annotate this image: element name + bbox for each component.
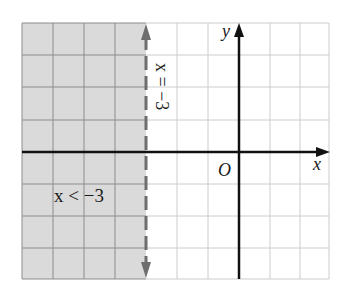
coordinate-plane: y x O x = −3 x < −3 (0, 0, 344, 299)
boundary-label: x = −3 (152, 63, 172, 110)
inequality-label: x < −3 (54, 185, 104, 206)
y-axis-label: y (220, 21, 230, 41)
y-axis-arrow-icon (234, 23, 244, 37)
origin-label: O (218, 160, 231, 180)
x-axis-label: x (312, 154, 321, 174)
